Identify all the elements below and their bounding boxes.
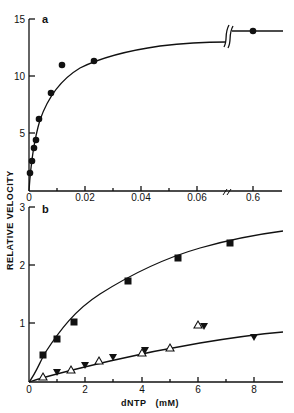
a-xtick-002: 0.02: [75, 192, 95, 203]
x-axis-label: dNTP (mM): [121, 398, 179, 408]
panel-b-open-triangle-points: [39, 321, 202, 380]
b-xtick-2: 2: [82, 384, 88, 395]
y-axis-label: RELATIVE VELOCITY: [5, 170, 15, 270]
panel-b-label: b: [42, 203, 49, 215]
a-xtick-006: 0.06: [187, 192, 207, 203]
a-xtick-06: 0.6: [246, 192, 260, 203]
panel-b-triangle-fit-curve: [29, 332, 283, 382]
a-xtick-004: 0.04: [131, 192, 151, 203]
panel-b-filled-triangle-points: [53, 323, 258, 376]
panel-b-square-fit-curve: [29, 231, 283, 382]
figure: a 15 10 5 0 0.02 0.04 0.06 0.6: [0, 0, 294, 413]
panel-b: [29, 207, 283, 382]
b-xtick-8: 8: [251, 384, 257, 395]
b-xtick-6: 6: [195, 384, 201, 395]
a-ytick-10: 10: [14, 71, 26, 82]
b-ytick-3: 3: [19, 202, 25, 213]
panel-a-break-mark: [224, 25, 233, 48]
panel-a: [29, 19, 283, 195]
b-ytick-1: 1: [19, 318, 25, 329]
b-xtick-4: 4: [139, 384, 145, 395]
b-xtick-0: 0: [26, 384, 32, 395]
b-ytick-2: 2: [19, 260, 25, 271]
a-xtick-0: 0: [26, 192, 32, 203]
panel-a-points: [27, 28, 257, 177]
a-ytick-5: 5: [19, 128, 25, 139]
panel-a-label: a: [42, 13, 49, 25]
panel-a-fit-curve: [29, 42, 226, 191]
a-ytick-15: 15: [14, 14, 26, 25]
panel-b-square-points: [40, 240, 234, 359]
